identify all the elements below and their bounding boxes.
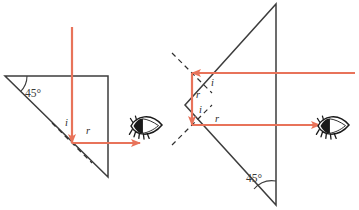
lower-incidence-angle-label-right: i bbox=[199, 104, 202, 115]
lower-reflection-angle-label-right: r bbox=[215, 113, 220, 124]
reflection-angle-label-left: r bbox=[86, 125, 91, 136]
left-prism-diagram: 45° i r bbox=[5, 27, 162, 177]
upper-incidence-angle-label-right: i bbox=[211, 77, 214, 88]
angle-label-left: 45° bbox=[25, 87, 42, 99]
figure-canvas: 45° i r 45° i r i r bbox=[0, 0, 359, 210]
eye-icon bbox=[129, 116, 162, 139]
right-prism-diagram: 45° i r i r bbox=[172, 4, 355, 205]
angle-label-right: 45° bbox=[246, 172, 263, 184]
incidence-angle-label-left: i bbox=[65, 117, 68, 128]
upper-reflection-angle-label-right: r bbox=[196, 89, 201, 100]
eye-icon bbox=[316, 116, 349, 139]
optics-figure: 45° i r 45° i r i r bbox=[0, 0, 359, 210]
